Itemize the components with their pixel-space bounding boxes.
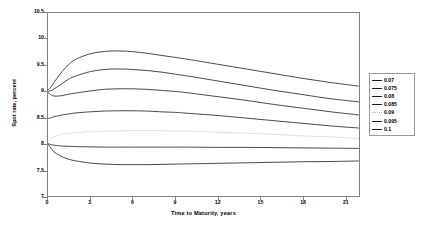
x-tick-label: 3 [88,199,91,205]
legend-line-swatch [372,85,382,91]
series-line [48,111,359,128]
x-axis-tick-labels: 036912151821 [47,199,360,209]
legend-item[interactable]: 0.075 [372,84,412,92]
legend-item[interactable]: 0.085 [372,100,412,108]
y-axis-tick-labels: 77.588.599.51010.5 [20,12,44,197]
x-tick-label: 12 [215,199,221,205]
legend-item[interactable]: 0.1 [372,125,412,133]
y-axis-title: Spot rate, percent [11,63,17,143]
legend-item-label: 0.07 [384,77,394,83]
legend-item[interactable]: 0.095 [372,116,412,124]
legend-line-swatch [372,126,382,132]
legend-line-swatch [372,118,382,124]
x-tick-label: 0 [46,199,49,205]
legend-item-label: 0.075 [384,85,397,91]
legend-item-label: 0.09 [384,109,394,115]
legend-item-label: 0.08 [384,93,394,99]
legend-item[interactable]: 0.09 [372,108,412,116]
x-tick-label: 15 [258,199,264,205]
x-tick-label: 6 [131,199,134,205]
legend-line-swatch [372,109,382,115]
legend-line-swatch [372,93,382,99]
legend-item[interactable]: 0.07 [372,76,412,84]
legend-item-label: 0.095 [384,118,397,124]
plot-area [47,12,360,197]
series-curves [48,13,359,196]
x-tick-label: 9 [174,199,177,205]
series-line [48,144,359,149]
series-line [48,131,359,143]
x-tick-label: 18 [300,199,306,205]
series-line [48,69,359,102]
chart-legend: 0.070.0750.080.0850.090.0950.1 [369,73,415,136]
legend-item-label: 0.1 [384,126,391,132]
x-axis-title: Time to Maturity, years [47,210,360,216]
legend-line-swatch [372,101,382,107]
legend-item[interactable]: 0.08 [372,92,412,100]
legend-item-label: 0.085 [384,101,397,107]
legend-line-swatch [372,77,382,83]
x-tick-label: 21 [343,199,349,205]
chart-figure: 77.588.599.51010.5 Spot rate, percent 03… [0,0,427,234]
series-line [48,89,359,115]
